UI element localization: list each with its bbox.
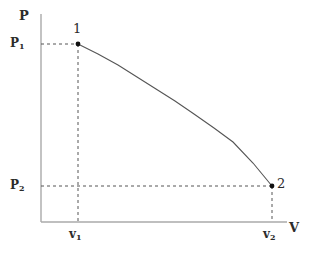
- x-axis-label: V: [289, 221, 299, 234]
- x-tick-label-v2-subscript: 2: [270, 232, 276, 242]
- y-tick-label-p2-text: P: [10, 178, 19, 192]
- state-point-label-2: 2: [277, 177, 285, 190]
- plot-canvas: [0, 0, 316, 253]
- x-tick-label-v1-text: v: [69, 227, 76, 241]
- x-tick-label-v1-subscript: 1: [76, 232, 82, 242]
- process-curve: [78, 44, 272, 186]
- state-point-marker-2: [270, 184, 275, 189]
- y-axis-label: P: [19, 9, 29, 22]
- y-tick-label-p2-subscript: 2: [19, 183, 25, 193]
- y-tick-label-p1-text: P: [10, 36, 19, 50]
- y-tick-label-p1-subscript: 1: [19, 41, 25, 51]
- state-point-label-1: 1: [73, 22, 81, 35]
- state-point-marker-1: [76, 42, 81, 47]
- y-tick-label-p2: P2: [10, 179, 25, 191]
- x-tick-label-v2: v2: [263, 228, 276, 240]
- pv-diagram-figure: P V P1 P2 v1 v2 1 2: [0, 0, 316, 253]
- y-tick-label-p1: P1: [10, 37, 25, 49]
- x-tick-label-v1: v1: [69, 228, 82, 240]
- x-tick-label-v2-text: v: [263, 227, 270, 241]
